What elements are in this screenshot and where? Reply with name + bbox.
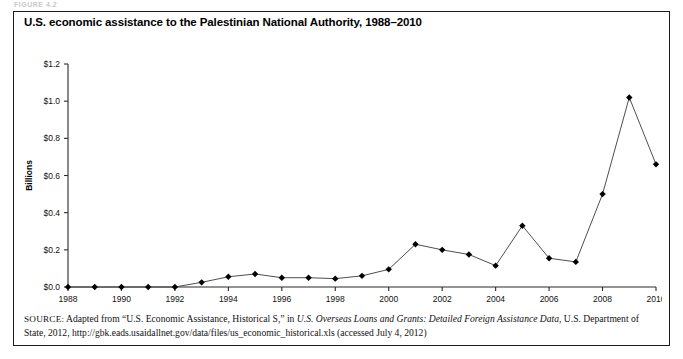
data-point-marker — [626, 94, 632, 100]
data-point-marker — [359, 273, 365, 279]
x-tick-label: 2002 — [433, 294, 452, 303]
x-tick-label: 1992 — [165, 294, 184, 303]
data-point-marker — [332, 275, 338, 281]
y-tick-label: $0.6 — [43, 171, 60, 181]
data-point-marker — [305, 275, 311, 281]
y-tick-label: $0.2 — [43, 245, 60, 255]
x-tick-label: 2010 — [647, 294, 662, 303]
x-tick-label: 1994 — [219, 294, 238, 303]
series-line — [68, 97, 656, 287]
data-point-marker — [279, 275, 285, 281]
y-tick-label: $1.0 — [43, 96, 60, 106]
data-point-marker — [573, 259, 579, 265]
data-point-marker — [198, 279, 204, 285]
x-tick-label: 1996 — [272, 294, 291, 303]
data-point-marker — [653, 161, 659, 167]
chart-canvas: $0.0$0.2$0.4$0.6$0.8$1.0$1.2Billions1988… — [22, 48, 662, 303]
y-tick-label: $0.4 — [43, 208, 60, 218]
x-tick-label: 2008 — [593, 294, 612, 303]
source-label: SOURCE: — [24, 314, 64, 324]
line-chart: $0.0$0.2$0.4$0.6$0.8$1.0$1.2Billions1988… — [22, 48, 662, 303]
chart-title: U.S. economic assistance to the Palestin… — [24, 16, 422, 28]
data-point-marker — [252, 271, 258, 277]
y-tick-label: $0.0 — [43, 282, 60, 292]
x-tick-label: 2000 — [379, 294, 398, 303]
y-axis-label: Billions — [24, 160, 34, 191]
data-point-marker — [599, 191, 605, 197]
x-tick-label: 1998 — [326, 294, 345, 303]
data-point-marker — [172, 284, 178, 290]
data-point-marker — [145, 284, 151, 290]
data-point-marker — [492, 262, 498, 268]
y-tick-label: $1.2 — [43, 59, 60, 69]
data-point-marker — [225, 274, 231, 280]
data-point-marker — [466, 251, 472, 257]
source-text-part1: Adapted from “U.S. Economic Assistance, … — [64, 313, 297, 324]
data-point-marker — [65, 284, 71, 290]
x-tick-label: 2004 — [486, 294, 505, 303]
data-point-marker — [118, 284, 124, 290]
figure-number-label: FIGURE 4.2 — [14, 1, 57, 8]
source-note: SOURCE: Adapted from “U.S. Economic Assi… — [24, 312, 656, 339]
data-point-marker — [439, 247, 445, 253]
y-tick-label: $0.8 — [43, 133, 60, 143]
x-tick-label: 1988 — [59, 294, 78, 303]
data-point-marker — [92, 284, 98, 290]
x-tick-label: 2006 — [540, 294, 559, 303]
source-text-italic: U.S. Overseas Loans and Grants: Detailed… — [297, 313, 559, 324]
x-tick-label: 1990 — [112, 294, 131, 303]
